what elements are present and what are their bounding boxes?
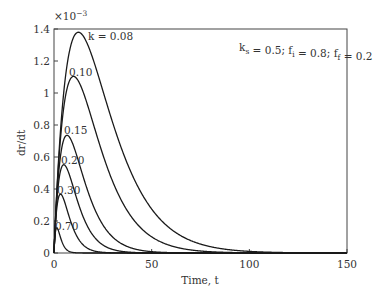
y-tick-label: 0.6	[33, 151, 50, 163]
curve-k-0-15	[54, 135, 347, 253]
curve-k-0-20	[54, 165, 347, 253]
y-tick-label: 1.4	[33, 23, 50, 35]
curve-label: 0.15	[64, 124, 87, 136]
curve-label: 0.30	[57, 184, 80, 196]
x-tick-label: 150	[337, 258, 357, 270]
y-tick-label: 0	[43, 247, 50, 259]
y-tick-label: 1.2	[33, 55, 50, 67]
y-tick-label: 0.8	[33, 119, 50, 131]
y-tick-label: 0.2	[33, 215, 50, 227]
y-axis-label: dr/dt	[15, 129, 27, 156]
y-tick-label: 0.4	[33, 183, 50, 195]
curve-k-0-10	[54, 76, 347, 253]
curve-k-0-08	[54, 32, 347, 253]
curve-label: k = 0.08	[88, 30, 133, 42]
x-tick-label: 0	[51, 258, 58, 270]
x-tick-label: 50	[145, 258, 158, 270]
chart: 050100150 00.20.40.60.811.21.4 k = 0.080…	[0, 0, 374, 298]
curves	[54, 32, 347, 253]
x-tick-label: 100	[239, 258, 259, 270]
y-multiplier-label: ×10−3	[54, 9, 87, 22]
curve-label: 0.10	[69, 66, 92, 78]
curve-label: 0.70	[55, 220, 78, 232]
curve-label: 0.20	[61, 154, 84, 166]
parameter-annotation: ks = 0.5; fi = 0.8; ff = 0.2	[239, 41, 372, 62]
x-axis-label: Time, t	[181, 274, 219, 286]
y-tick-label: 1	[43, 87, 50, 99]
